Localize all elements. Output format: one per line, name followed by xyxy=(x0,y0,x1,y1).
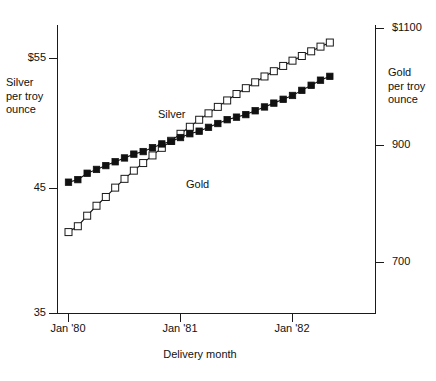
left-axis-title: Silver per troy ounce xyxy=(6,76,54,117)
series-silver xyxy=(65,73,333,185)
data-point-gold xyxy=(186,123,193,130)
data-point-silver xyxy=(177,134,183,140)
series-annotation-gold: Gold xyxy=(186,178,246,191)
data-point-silver xyxy=(233,114,239,120)
data-point-silver xyxy=(252,108,258,114)
right-axis-title: Gold per troy ounce xyxy=(388,66,436,107)
data-point-silver xyxy=(103,162,109,168)
chart-figure: $55 45 35 Silver per troy ounce $1100 90… xyxy=(0,0,436,381)
data-point-silver xyxy=(93,166,99,172)
data-point-gold xyxy=(308,48,315,55)
data-point-silver xyxy=(159,141,165,147)
data-point-silver xyxy=(327,73,333,79)
data-point-silver xyxy=(289,92,295,98)
data-point-silver xyxy=(168,138,174,144)
series-gold xyxy=(65,39,333,236)
data-point-gold xyxy=(289,57,296,64)
data-point-silver xyxy=(65,179,71,185)
data-point-gold xyxy=(317,43,324,50)
data-point-silver xyxy=(215,120,221,126)
data-point-gold xyxy=(93,202,100,209)
data-point-gold xyxy=(84,212,91,219)
data-point-gold xyxy=(298,53,305,60)
data-point-silver xyxy=(299,87,305,93)
data-point-silver xyxy=(131,151,137,157)
left-axis-tick-label-bottom: 35 xyxy=(6,306,46,319)
data-point-silver xyxy=(308,82,314,88)
data-point-silver xyxy=(224,117,230,123)
series-annotation-silver: Silver xyxy=(158,108,218,121)
data-point-gold xyxy=(102,193,109,200)
x-axis-title: Delivery month xyxy=(120,348,280,361)
data-point-silver xyxy=(121,155,127,161)
right-axis-tick-label-bottom: 700 xyxy=(392,255,436,268)
left-axis-tick-label-mid: 45 xyxy=(6,181,46,194)
x-axis-tick-label-jan80: Jan '80 xyxy=(38,322,98,335)
data-point-gold xyxy=(130,167,137,174)
data-point-gold xyxy=(280,62,287,69)
data-point-silver xyxy=(243,111,249,117)
data-point-silver xyxy=(261,104,267,110)
data-point-silver xyxy=(84,170,90,176)
data-point-gold xyxy=(112,184,119,191)
data-point-gold xyxy=(270,68,277,75)
data-point-gold xyxy=(140,160,147,167)
data-point-gold xyxy=(242,85,249,92)
right-axis-tick-label-mid: 900 xyxy=(392,138,436,151)
data-point-silver xyxy=(196,128,202,134)
data-point-gold xyxy=(149,152,156,159)
data-point-silver xyxy=(112,159,118,165)
right-axis-tick-label-top: $1100 xyxy=(392,21,436,34)
data-point-gold xyxy=(65,229,72,236)
x-axis-tick-label-jan81: Jan '81 xyxy=(150,322,210,335)
data-point-gold xyxy=(233,91,240,98)
data-point-gold xyxy=(224,97,231,104)
data-point-silver xyxy=(149,145,155,151)
data-point-silver xyxy=(317,77,323,83)
data-point-gold xyxy=(326,39,333,46)
data-point-gold xyxy=(121,175,128,182)
data-point-silver xyxy=(280,96,286,102)
data-point-silver xyxy=(187,131,193,137)
data-point-gold xyxy=(261,73,268,80)
left-axis-tick-label-top: $55 xyxy=(6,51,46,64)
x-axis-tick-label-jan82: Jan '82 xyxy=(262,322,322,335)
data-point-silver xyxy=(140,148,146,154)
data-point-silver xyxy=(205,124,211,130)
data-point-silver xyxy=(271,100,277,106)
data-point-gold xyxy=(252,79,259,86)
data-point-gold xyxy=(74,223,81,230)
series-line-gold xyxy=(69,43,330,233)
data-point-silver xyxy=(75,176,81,182)
